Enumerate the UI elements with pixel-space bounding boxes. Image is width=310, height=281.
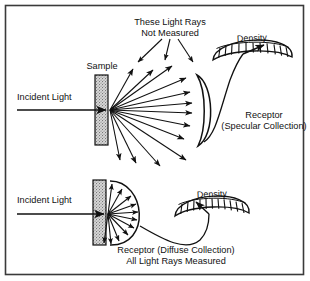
receptor-caption-specular-line2: (Specular Collection) xyxy=(221,121,306,131)
receptor-caption-diffuse-line2: All Light Rays Measured xyxy=(126,256,226,266)
diagram-canvas: These Light Rays Not Measured Sample Inc… xyxy=(0,0,310,281)
sample-label: Sample xyxy=(86,61,117,71)
receptor-caption-specular-line1: Receptor xyxy=(245,110,282,120)
meter-label-specular: Density xyxy=(237,32,268,43)
incident-light-label-specular: Incident Light xyxy=(17,92,72,102)
sample-slab-diffuse xyxy=(93,180,106,245)
diagram-figure: These Light Rays Not Measured Sample Inc… xyxy=(0,0,310,281)
receptor-caption-diffuse-line1: Receptor (Diffuse Collection) xyxy=(117,245,234,255)
incident-light-label-diffuse: Incident Light xyxy=(17,195,72,205)
callout-label-line1: These Light Rays xyxy=(134,17,206,27)
meter-label-diffuse: Density xyxy=(197,188,228,199)
callout-label-line2: Not Measured xyxy=(141,28,199,38)
